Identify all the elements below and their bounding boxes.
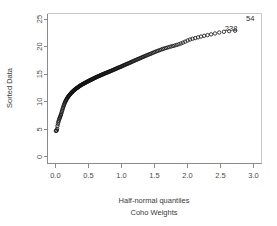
half-normal-plot-figure: 0.00.51.01.52.02.53.00510152025 54238 Ha…	[0, 0, 277, 226]
x-tick-label: 0.5	[83, 171, 93, 180]
x-tick-label: 2.0	[182, 171, 192, 180]
outlier-label: 54	[246, 14, 254, 23]
data-point	[213, 32, 216, 35]
x-tick-label: 1.0	[116, 171, 126, 180]
plot-canvas: 0.00.51.01.52.02.53.00510152025 54238 Ha…	[0, 0, 277, 226]
x-tick-label: 1.5	[149, 171, 159, 180]
y-axis-title: Sorted Data	[5, 67, 14, 108]
data-point	[206, 33, 209, 36]
data-point	[218, 31, 221, 34]
data-point	[179, 42, 182, 45]
y-tick-label: 5	[35, 127, 44, 131]
plot-subtitle: Coho Weights	[131, 208, 178, 217]
y-tick-label: 15	[35, 70, 44, 78]
x-axis-title: Half-normal quantiles	[119, 196, 190, 205]
x-tick-label: 2.5	[215, 171, 225, 180]
x-tick-label: 3.0	[248, 171, 258, 180]
y-tick-label: 20	[35, 42, 44, 50]
x-tick-label: 0.0	[50, 171, 60, 180]
data-point	[209, 33, 212, 36]
y-tick-label: 10	[35, 98, 44, 106]
data-point-group	[54, 29, 237, 133]
y-tick-label: 25	[35, 15, 44, 23]
y-tick-label: 0	[35, 155, 44, 159]
outlier-label: 238	[225, 24, 238, 33]
data-point	[202, 34, 205, 37]
annotation-group: 54238	[225, 14, 255, 32]
